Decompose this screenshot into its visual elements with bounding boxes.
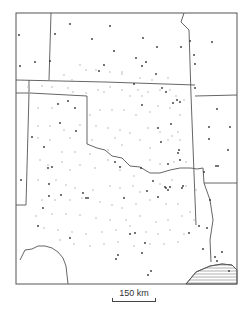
station-marker-dark: [87, 197, 89, 199]
station-marker-light: [151, 79, 153, 81]
station-marker-dark: [109, 25, 111, 27]
station-marker-light: [133, 245, 135, 247]
station-marker-dark: [115, 258, 117, 260]
station-marker-dark: [157, 196, 159, 198]
station-marker-light: [103, 91, 105, 93]
station-marker-dark: [194, 63, 196, 65]
station-marker-light: [74, 187, 76, 189]
station-marker-light: [121, 207, 123, 209]
station-marker-dark: [194, 87, 196, 89]
station-marker-dark: [229, 126, 231, 128]
station-marker-light: [79, 124, 81, 126]
station-marker-light: [109, 86, 111, 88]
station-marker-light: [135, 203, 137, 205]
station-marker-light: [95, 125, 97, 127]
station-marker-light: [37, 137, 39, 139]
station-marker-dark: [135, 57, 137, 59]
station-marker-light: [92, 189, 94, 191]
station-marker-light: [167, 77, 169, 79]
station-marker-light: [149, 243, 151, 245]
station-marker-dark: [178, 149, 180, 151]
station-marker-dark: [193, 54, 195, 56]
station-marker-light: [54, 199, 56, 201]
station-marker-light: [129, 95, 131, 97]
station-marker-light: [55, 179, 57, 181]
boundary-line: [195, 95, 237, 96]
station-marker-light: [109, 219, 111, 221]
station-marker-light: [121, 89, 123, 91]
station-marker-light: [37, 125, 39, 127]
station-marker-light: [67, 87, 69, 89]
station-marker-light: [51, 86, 53, 88]
station-marker-dark: [37, 225, 39, 227]
station-marker-light: [41, 199, 43, 201]
station-marker-light: [157, 233, 159, 235]
station-marker-dark: [167, 163, 169, 165]
station-marker-dark: [206, 227, 208, 229]
station-marker-dark: [152, 180, 154, 182]
station-marker-dark: [119, 166, 121, 168]
station-marker-dark: [147, 274, 149, 276]
station-marker-dark: [188, 232, 190, 234]
station-marker-light: [121, 71, 123, 73]
station-marker-dark: [172, 102, 174, 104]
station-marker-dark: [47, 167, 49, 169]
station-marker-light: [149, 147, 151, 149]
station-marker-light: [61, 151, 63, 153]
station-marker-light: [167, 219, 169, 221]
station-marker-dark: [91, 38, 93, 40]
station-marker-light: [74, 151, 76, 153]
station-marker-dark: [141, 65, 143, 67]
station-marker-dark: [161, 87, 163, 89]
station-marker-dark: [208, 138, 210, 140]
station-marker-dark: [179, 101, 181, 103]
station-marker-dark: [48, 183, 50, 185]
station-marker-light: [149, 199, 151, 201]
station-marker-dark: [48, 195, 50, 197]
station-marker-dark: [167, 189, 169, 191]
station-marker-light: [57, 229, 59, 231]
station-marker-light: [99, 109, 101, 111]
station-marker-light: [79, 164, 81, 166]
station-marker-light: [149, 111, 151, 113]
station-marker-dark: [42, 207, 44, 209]
station-marker-light: [37, 179, 39, 181]
station-marker-light: [147, 127, 149, 129]
station-marker-light: [129, 132, 131, 134]
station-marker-light: [132, 185, 134, 187]
station-marker-light: [139, 139, 141, 141]
station-marker-dark: [141, 252, 143, 254]
station-marker-dark: [133, 83, 135, 85]
boundary-line: [16, 93, 29, 205]
station-marker-light: [51, 107, 53, 109]
station-marker-light: [41, 85, 43, 87]
station-marker-dark: [150, 270, 152, 272]
station-marker-light: [155, 221, 157, 223]
station-marker-light: [69, 137, 71, 139]
station-marker-light: [49, 139, 51, 141]
station-marker-dark: [49, 60, 51, 62]
station-marker-light: [185, 185, 187, 187]
station-marker-light: [73, 243, 75, 245]
station-marker-dark: [69, 237, 71, 239]
station-marker-light: [95, 217, 97, 219]
station-marker-dark: [98, 70, 100, 72]
station-marker-dark: [141, 104, 143, 106]
station-marker-light: [141, 95, 143, 97]
state-boundaries: [16, 13, 237, 284]
station-marker-dark: [51, 166, 53, 168]
station-marker-dark: [117, 254, 119, 256]
station-marker-dark: [165, 187, 167, 189]
station-marker-light: [81, 197, 83, 199]
station-marker-light: [107, 127, 109, 129]
station-marker-light: [177, 203, 179, 205]
station-marker-light: [71, 79, 73, 81]
station-marker-dark: [216, 260, 218, 262]
station-marker-dark: [74, 107, 76, 109]
station-marker-light: [195, 189, 197, 191]
station-marker-light: [79, 214, 81, 216]
station-marker-light: [51, 213, 53, 215]
station-marker-light: [114, 137, 116, 139]
station-marker-dark: [57, 103, 59, 105]
station-marker-light: [149, 159, 151, 161]
